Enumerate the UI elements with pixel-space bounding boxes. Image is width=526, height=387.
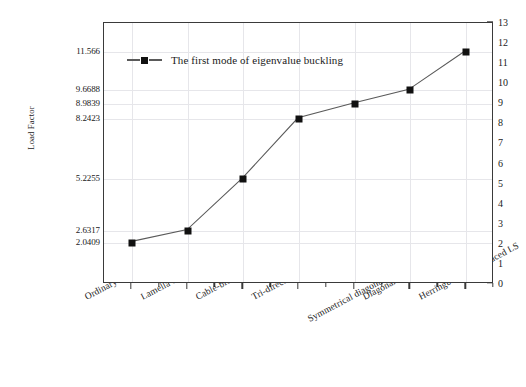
right-axis-tick-label: 11	[498, 57, 508, 68]
data-point-marker	[296, 115, 303, 122]
legend: The first mode of eigenvalue buckling	[127, 54, 343, 66]
x-axis-minor-tick	[325, 283, 326, 287]
x-axis-tick-mark	[186, 283, 187, 289]
data-point-marker	[351, 100, 358, 107]
y-axis-title: Load Factor	[26, 106, 36, 150]
y-axis-tick-label: 5.2255	[76, 173, 100, 183]
data-point-marker	[184, 228, 191, 235]
x-axis-tick-mark	[297, 283, 298, 289]
legend-marker-icon	[141, 57, 148, 64]
series-polyline	[132, 52, 465, 242]
x-axis-tick-mark	[242, 283, 243, 289]
y-axis-tick-labels: 2.04092.63175.22558.24238.98399.668811.5…	[45, 0, 100, 387]
data-point-marker	[240, 176, 247, 183]
right-axis-tick-label: 8	[498, 117, 503, 128]
x-axis-tick-mark	[464, 283, 465, 289]
right-axis-tick-label: 7	[498, 137, 503, 148]
right-axis-tick-label: 4	[498, 197, 503, 208]
y-axis-tick-label: 2.0409	[76, 237, 100, 247]
legend-line-left	[127, 59, 140, 60]
y-axis-tick-label: 8.9839	[76, 98, 100, 108]
y-axis-tick-label: 11.566	[76, 46, 100, 56]
right-axis-tick-label: 13	[498, 17, 508, 28]
y-axis-tick-label: 8.2423	[76, 113, 100, 123]
y-axis-tick-label: 2.6317	[76, 225, 100, 235]
right-axis-tick-label: 5	[498, 177, 503, 188]
legend-line-right	[149, 59, 162, 60]
x-axis-tick-mark	[409, 283, 410, 289]
data-point-marker	[463, 48, 470, 55]
right-axis-tick-label: 12	[498, 37, 508, 48]
x-axis-minor-tick	[492, 283, 493, 287]
right-axis-tick-label: 10	[498, 77, 508, 88]
right-axis-tick-label: 9	[498, 97, 503, 108]
x-axis-tick-mark	[130, 283, 131, 289]
eigenvalue-buckling-line-chart: Load Factor 2.04092.63175.22558.24238.98…	[0, 0, 526, 387]
data-point-marker	[407, 86, 414, 93]
right-axis-tick-label: 3	[498, 217, 503, 228]
y-axis-tick-label: 9.6688	[76, 84, 100, 94]
right-axis-tick-label: 6	[498, 157, 503, 168]
legend-label: The first mode of eigenvalue buckling	[171, 54, 343, 66]
right-axis-tick-label: 0	[498, 278, 503, 289]
data-point-marker	[128, 240, 135, 247]
